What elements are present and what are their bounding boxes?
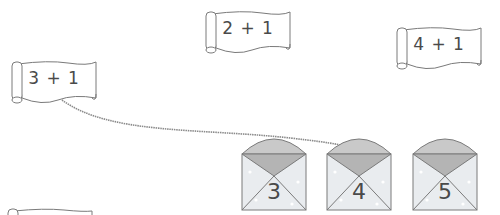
scroll-expression: 3 + 1	[8, 68, 100, 88]
envelope-5[interactable]: 5	[411, 134, 479, 212]
scroll-card[interactable]: 3 + 1	[8, 58, 100, 106]
scroll-card[interactable]: 4 + 1	[393, 24, 485, 72]
scroll-shape-icon	[4, 207, 96, 215]
scroll-expression: 2 + 1	[202, 18, 294, 38]
scroll-expression: 4 + 1	[393, 34, 485, 54]
envelope-3[interactable]: 3	[240, 134, 308, 212]
envelope-4[interactable]: 4	[325, 134, 393, 212]
scroll-card[interactable]: 2 + 1	[202, 8, 294, 56]
envelope-number: 5	[411, 179, 479, 204]
scroll-card[interactable]	[4, 207, 96, 215]
envelope-number: 3	[240, 179, 308, 204]
envelope-number: 4	[325, 179, 393, 204]
